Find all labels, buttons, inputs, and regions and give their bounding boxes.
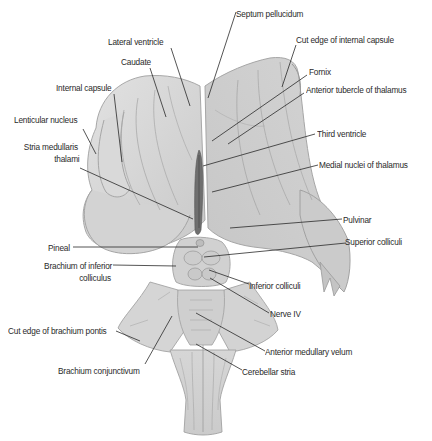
label-third-ventricle: Third ventricle: [317, 128, 366, 139]
label-lenticular-nucleus: Lenticular nucleus: [14, 114, 77, 125]
label-cut-edge-brachium-pontis: Cut edge of brachium pontis: [8, 325, 107, 336]
label-brachium-inferior-colliculus-line2: colliculus: [79, 272, 111, 283]
label-stria-medullaris-line2: thalami: [55, 153, 80, 164]
label-cerebellar-stria: Cerebellar stria: [242, 366, 295, 377]
brainstem-diagram: Septum pellucidum Lateral ventricle Cut …: [0, 0, 432, 441]
midbrain: [173, 237, 231, 286]
label-caudate: Caudate: [121, 56, 151, 67]
label-superior-colliculi: Superior colliculi: [345, 236, 402, 247]
label-pineal: Pineal: [48, 242, 70, 253]
label-inferior-colliculi: Inferior colliculi: [249, 280, 300, 291]
label-septum-pellucidum: Septum pellucidum: [236, 8, 303, 19]
pons-peduncles: [118, 282, 278, 352]
label-lateral-ventricle: Lateral ventricle: [108, 36, 163, 47]
label-stria-medullaris: Stria medullaris: [24, 141, 78, 152]
leader-brachium-inferior-colliculus: [113, 265, 176, 266]
label-brachium-conjunctivum: Brachium conjunctivum: [58, 365, 140, 376]
label-nerve-iv: Nerve IV: [270, 308, 301, 319]
label-anterior-tubercle-thalamus: Anterior tubercle of thalamus: [306, 84, 406, 95]
label-medial-nuclei-thalamus: Medial nuclei of thalamus: [319, 159, 408, 170]
left-hemisphere: [83, 75, 205, 253]
label-brachium-inferior-colliculus: Brachium of inferior: [44, 260, 112, 271]
label-fornix: Fornix: [309, 66, 331, 77]
label-cut-edge-internal-capsule: Cut edge of internal capsule: [296, 34, 394, 45]
medulla: [170, 345, 236, 435]
label-pulvinar: Pulvinar: [343, 214, 371, 225]
label-internal-capsule: Internal capsule: [56, 82, 112, 93]
label-anterior-medullary-velum: Anterior medullary velum: [265, 346, 352, 357]
